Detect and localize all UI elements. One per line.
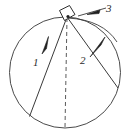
chord-2-label: 2 — [80, 55, 86, 66]
arc-3-path — [68, 18, 117, 42]
chord-1-direction-arrow — [42, 37, 49, 55]
vertical-diameter-dashed-line — [65, 18, 67, 128]
arc-3-label: 3 — [106, 3, 112, 14]
chord-1-label: 1 — [33, 57, 39, 68]
chord-2-direction-arrow — [90, 37, 105, 57]
apex-junction-dot — [66, 15, 69, 18]
arc-3-leader-line — [78, 8, 106, 16]
arc-3-direction-arrow — [87, 10, 100, 15]
circle-chord-diagram — [0, 0, 133, 138]
figure-container: 1 2 3 — [0, 0, 133, 138]
chord-2-line — [67, 17, 118, 88]
